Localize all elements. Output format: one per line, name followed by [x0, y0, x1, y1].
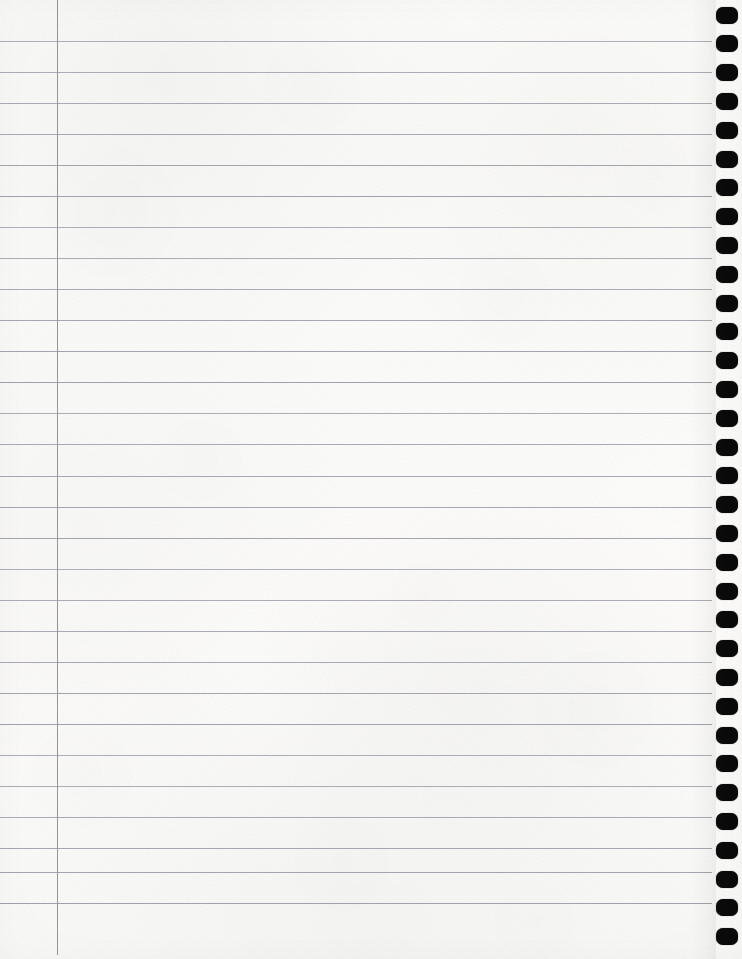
punch-hole — [716, 266, 738, 283]
punch-hole — [716, 842, 738, 859]
punch-hole — [716, 669, 738, 686]
punch-hole — [716, 496, 738, 513]
punch-hole — [716, 727, 738, 744]
punch-hole — [716, 755, 738, 772]
punch-hole — [716, 7, 738, 24]
punch-hole — [716, 122, 738, 139]
punch-hole — [716, 352, 738, 369]
punch-hole — [716, 554, 738, 571]
punch-hole — [716, 899, 738, 916]
writing-area[interactable] — [58, 0, 712, 959]
punch-hole — [716, 151, 738, 168]
punch-hole — [716, 179, 738, 196]
punch-hole — [716, 323, 738, 340]
punch-hole — [716, 698, 738, 715]
punch-hole — [716, 410, 738, 427]
punch-hole — [716, 439, 738, 456]
punch-hole — [716, 208, 738, 225]
punch-hole — [716, 583, 738, 600]
punch-hole — [716, 237, 738, 254]
notebook-page — [0, 0, 742, 959]
punch-hole — [716, 93, 738, 110]
punch-hole — [716, 611, 738, 628]
punch-hole — [716, 35, 738, 52]
punch-hole — [716, 64, 738, 81]
punch-hole — [716, 871, 738, 888]
punch-hole — [716, 525, 738, 542]
punch-hole — [716, 640, 738, 657]
punch-hole — [716, 467, 738, 484]
punch-hole — [716, 813, 738, 830]
punch-hole — [716, 928, 738, 945]
punch-hole — [716, 784, 738, 801]
punch-hole — [716, 295, 738, 312]
punch-hole — [716, 381, 738, 398]
